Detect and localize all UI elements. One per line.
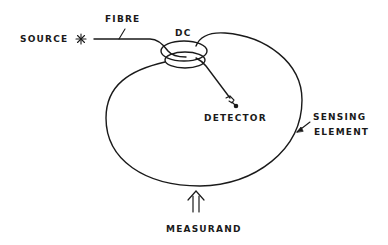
fibre-pointer: [119, 29, 125, 39]
label-sensing: SENSING: [313, 112, 366, 122]
label-fibre: FIBRE: [105, 14, 140, 24]
label-detector: DETECTOR: [204, 113, 267, 123]
label-dc: DC: [175, 28, 191, 38]
label-source: SOURCE: [20, 34, 68, 44]
measurand-double-up-arrow-icon: [188, 191, 204, 212]
label-measurand: MEASURAND: [166, 224, 242, 234]
source-star-icon: [76, 34, 86, 44]
detector-dot: [234, 104, 237, 107]
label-element: ELEMENT: [314, 127, 369, 137]
diagram-canvas: SOURCE FIBRE DC DETECTOR SENSING ELEMENT…: [0, 0, 388, 245]
